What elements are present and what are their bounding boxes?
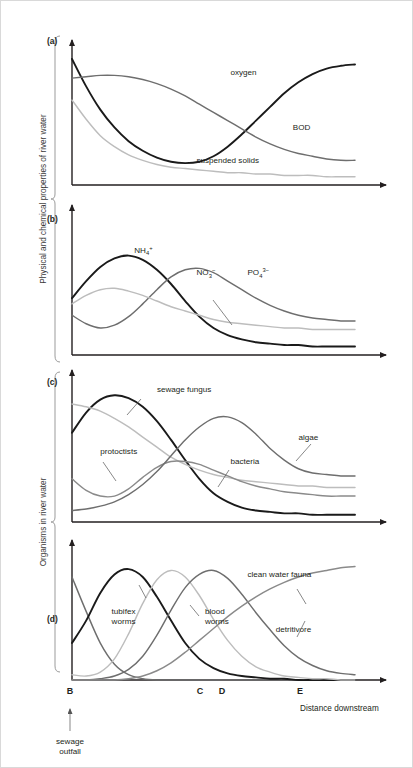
panel-a: oxygenBODsuspended solids(a) [47,36,386,185]
label-b-po43-: PO43− [247,267,269,278]
label-b-po43--sup: 3− [262,267,269,273]
sewage-outfall-label-line1: sewage [56,737,84,746]
label-d-blood-worms: blood [205,607,225,616]
label-a-bod: BOD [293,123,311,132]
marker-c: C [197,686,204,696]
label-b-po43--sym: PO [247,268,259,277]
label-d-tubifex-worms: tubifex [112,607,136,616]
marker-d: D [219,686,226,696]
river-pollution-figure: Physical and chemical properties of rive… [0,0,413,768]
leader-algae [296,444,311,461]
label-d-tubifex-worms-line2: worms [111,617,136,626]
label-d-blood-worms-line2: worms [204,617,229,626]
label-c-sewage-fungus: sewage fungus [157,385,211,394]
label-b-no3--sub: 3 [209,273,212,279]
bracket-organisms-line [51,372,60,672]
panel-label-d: (d) [47,614,58,624]
page-frame [1,1,413,768]
label-a-oxygen: oxygen [230,68,256,77]
label-b-no3-: NO3− [197,267,216,278]
label-b-nh4-: NH4+ [134,245,153,256]
panel-label-c: (c) [47,377,57,387]
bracket-physical-chemical-label: Physical and chemical properties of rive… [39,114,48,284]
panel-label-b: (b) [47,214,58,224]
label-d-detritivore: detritivore [276,625,312,634]
marker-b: B [67,686,74,696]
panel-label-a: (a) [47,36,57,46]
label-b-no3--sup: − [212,267,216,273]
label-b-nh4--sym: NH [134,246,146,255]
label-b-nh4--sub: 4 [146,250,150,256]
leader-protoctists [103,462,116,481]
label-b-nh4--sup: + [149,245,153,251]
x-axis-title: Distance downstream [300,704,379,713]
label-b-no3--sym: NO [197,268,209,277]
label-c-algae: algae [298,433,318,442]
label-a-suspended-solids: suspended solids [197,156,260,165]
bracket-physical-chemical: Physical and chemical properties of rive… [39,36,60,362]
leader-tubifex [139,585,146,598]
label-d-clean-water-fauna: clean water fauna [247,570,311,579]
label-b-po43--sub: 4 [259,273,263,279]
bracket-physical-chemical-line [51,36,60,362]
curve-a-bod [72,75,355,160]
marker-e: E [297,686,303,696]
curve-c-bacteria [72,404,355,488]
leader-blood-worms [190,605,199,616]
panel-c: sewage fungusbacteriaprotoctistsalgae(c) [47,370,386,522]
label-c-protoctists: protoctists [100,447,137,456]
bracket-organisms-label: Organisms in river water [39,477,48,566]
bracket-organisms: Organisms in river water [39,372,60,672]
panel-d: tubifexwormsbloodwormsdetritivoreclean w… [47,540,386,680]
panel-b: NH4+NO3−PO43−(b) [47,205,386,355]
figure-root: Physical and chemical properties of rive… [0,0,413,768]
sewage-outfall-label-line2: outfall [59,747,81,756]
leader-clean-fauna [297,589,306,604]
curve-b-po43- [72,288,355,329]
label-c-bacteria: bacteria [230,457,259,466]
